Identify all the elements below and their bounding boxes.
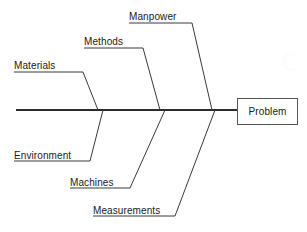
category-label-manpower[interactable]: Manpower <box>129 11 177 22</box>
bone-diagonal-manpower <box>192 23 212 110</box>
effect-problem-label: Problem <box>249 106 287 117</box>
fishbone-diagram-canvas: Problem Materials Methods Manpower Envir… <box>0 0 307 232</box>
category-label-materials[interactable]: Materials <box>14 60 55 71</box>
category-label-environment[interactable]: Environment <box>14 150 71 161</box>
bone-diagonal-machines <box>130 110 165 188</box>
bone-diagonal-measurements <box>175 110 215 216</box>
category-label-measurements[interactable]: Measurements <box>93 205 160 216</box>
category-label-machines[interactable]: Machines <box>70 177 114 188</box>
faint-watermark: ℂ <box>281 50 296 76</box>
bone-diagonal-methods <box>143 48 160 110</box>
bone-diagonal-environment <box>90 110 103 161</box>
bone-diagonal-materials <box>83 72 98 110</box>
effect-problem-box[interactable]: Problem <box>237 98 298 125</box>
category-label-methods[interactable]: Methods <box>84 36 123 47</box>
branches-group <box>14 23 215 216</box>
